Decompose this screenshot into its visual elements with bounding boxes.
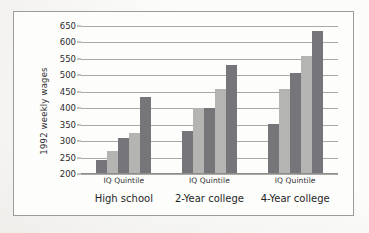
y-tick-label-550: 550	[50, 55, 76, 64]
y-tick-label-650: 650	[50, 22, 76, 31]
bar-1-3	[118, 138, 129, 174]
x-axis-baseline	[81, 173, 338, 174]
y-tick-label-200: 200	[50, 170, 76, 179]
y-axis-title: 1992 weekly wages	[39, 51, 49, 171]
y-tick-label-500: 500	[50, 71, 76, 80]
y-tick-label-400: 400	[50, 104, 76, 113]
x-category-label-2: 2-Year college	[167, 193, 253, 204]
bar-2-4	[215, 89, 226, 174]
y-tick-label-600: 600	[50, 38, 76, 47]
bar-2-3	[204, 108, 215, 174]
bar-3-4	[301, 56, 312, 174]
plot-area	[81, 26, 338, 174]
y-tick-label-250: 250	[50, 153, 76, 162]
x-group-label-block-2: IQ Quintile2-Year college	[167, 176, 253, 204]
bar-1-4	[129, 133, 140, 174]
bar-group-2-year-college	[182, 26, 237, 174]
bar-2-2	[193, 108, 204, 174]
bar-group-4-year-college	[268, 26, 323, 174]
x-category-label-3: 4-Year college	[252, 193, 338, 204]
x-group-label-block-1: IQ QuintileHigh school	[81, 176, 167, 204]
plot-wrapper: 1992 weekly wages 2002503003504004505005…	[14, 12, 355, 217]
y-axis-tick-labels: 200250300350400450500550600650	[50, 26, 76, 174]
bar-group-high-school	[96, 26, 151, 174]
x-quintile-label-3: IQ Quintile	[252, 176, 338, 185]
bars-layer	[81, 26, 338, 174]
x-category-label-1: High school	[81, 193, 167, 204]
x-quintile-label-1: IQ Quintile	[81, 176, 167, 185]
bar-1-5	[140, 97, 151, 174]
y-tick-label-300: 300	[50, 137, 76, 146]
x-quintile-label-2: IQ Quintile	[167, 176, 253, 185]
bar-3-3	[290, 73, 301, 174]
bar-2-1	[182, 131, 193, 174]
y-tick-label-350: 350	[50, 120, 76, 129]
x-group-label-block-3: IQ Quintile4-Year college	[252, 176, 338, 204]
bar-3-1	[268, 124, 279, 174]
bar-1-1	[96, 160, 107, 174]
bar-1-2	[107, 151, 118, 174]
y-tick-label-450: 450	[50, 88, 76, 97]
bar-2-5	[226, 65, 237, 174]
figure-root: 1992 weekly wages 2002503003504004505005…	[0, 0, 369, 233]
chart-frame: 1992 weekly wages 2002503003504004505005…	[13, 11, 354, 216]
bar-3-5	[312, 31, 323, 174]
x-axis-labels: IQ QuintileHigh schoolIQ Quintile2-Year …	[81, 176, 338, 216]
bar-3-2	[279, 89, 290, 175]
gridline-200	[81, 174, 338, 175]
